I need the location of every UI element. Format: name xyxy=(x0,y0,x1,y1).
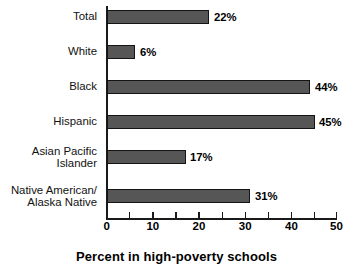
category-label-line: Black xyxy=(69,80,97,92)
category-label-line: Alaska Native xyxy=(0,196,97,208)
x-axis-tick-50 xyxy=(336,212,337,218)
category-label-white: White xyxy=(0,46,97,58)
category-label-hispanic: Hispanic xyxy=(0,116,97,128)
category-label-line: Native American/ xyxy=(0,184,97,196)
bar-value-asian-pacific-islander: 17% xyxy=(190,150,213,164)
x-axis-tick-20 xyxy=(198,212,199,218)
bar-chart: 0 10 20 30 40 50 Total 22% White 6% Blac… xyxy=(0,0,353,273)
bar-value-white: 6% xyxy=(140,45,156,59)
x-tick-label-20: 20 xyxy=(184,221,214,233)
bar-asian-pacific-islander xyxy=(107,150,186,164)
x-tick-label-0: 0 xyxy=(92,221,122,233)
x-axis-tick-10 xyxy=(152,212,153,218)
bar-native-american-alaska-native xyxy=(107,189,250,203)
x-axis-tick-45 xyxy=(314,212,315,218)
category-label-total: Total xyxy=(0,11,97,23)
bar-total xyxy=(107,10,209,24)
category-label-line: Hispanic xyxy=(53,115,97,127)
chart-row: Hispanic 45% xyxy=(0,115,353,131)
bar-hispanic xyxy=(107,115,315,129)
bar-value-native-american-alaska-native: 31% xyxy=(255,189,278,203)
x-axis-tick-40 xyxy=(291,212,292,218)
chart-row: Total 22% xyxy=(0,10,353,26)
category-label-line: Islander xyxy=(0,157,97,169)
category-label-line: Asian Pacific xyxy=(0,145,97,157)
bar-value-total: 22% xyxy=(214,10,237,24)
category-label-asian-pacific-islander: Asian Pacific Islander xyxy=(0,145,97,169)
x-tick-label-30: 30 xyxy=(230,221,260,233)
x-axis-tick-25 xyxy=(222,212,223,218)
x-axis-title: Percent in high-poverty schools xyxy=(0,249,353,264)
x-axis-tick-15 xyxy=(175,212,176,218)
x-axis-tick-5 xyxy=(129,212,130,218)
bar-black xyxy=(107,80,310,94)
x-axis-tick-35 xyxy=(268,212,269,218)
chart-row: White 6% xyxy=(0,45,353,61)
bar-white xyxy=(107,45,135,59)
chart-row: Black 44% xyxy=(0,80,353,96)
x-axis-line xyxy=(106,218,337,220)
chart-row: Native American/ Alaska Native 31% xyxy=(0,189,353,205)
bar-value-black: 44% xyxy=(315,80,338,94)
x-tick-label-50: 50 xyxy=(322,221,352,233)
category-label-black: Black xyxy=(0,81,97,93)
y-axis-line xyxy=(106,6,108,219)
chart-row: Asian Pacific Islander 17% xyxy=(0,150,353,166)
x-axis-tick-30 xyxy=(245,212,246,218)
category-label-line: Total xyxy=(73,10,97,22)
x-axis-tick-0 xyxy=(106,212,107,218)
bar-value-hispanic: 45% xyxy=(319,115,342,129)
x-tick-label-10: 10 xyxy=(138,221,168,233)
category-label-line: White xyxy=(68,45,97,57)
x-tick-label-40: 40 xyxy=(276,221,306,233)
category-label-native-american-alaska-native: Native American/ Alaska Native xyxy=(0,184,97,208)
